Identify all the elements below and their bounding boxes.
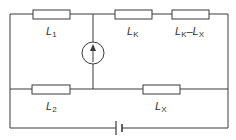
current-source-icon [82,42,104,64]
label-l1: L1 [46,26,57,39]
resistor-lk [115,10,152,19]
label-lk: LK [127,26,138,39]
label-lk-minus-lx: LK–LX [175,26,204,39]
resistor-l1 [33,10,70,19]
resistor-lx [143,85,180,94]
battery-icon [116,121,122,135]
resistor-l2 [32,85,70,94]
label-lx: LX [155,101,166,114]
label-l2: L2 [46,101,57,114]
circuit-diagram [0,0,236,140]
resistor-lk-minus-lx [172,10,209,19]
